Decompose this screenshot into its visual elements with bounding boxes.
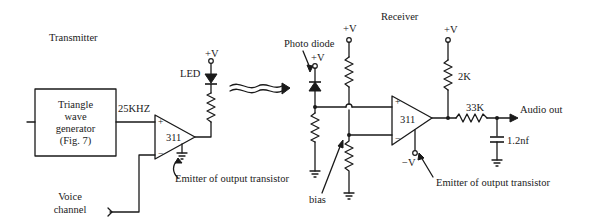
resistor-icon [311, 113, 319, 142]
resistor-icon [207, 93, 215, 122]
audio-out-label: Audio out [520, 104, 562, 115]
pullup-supply-label: +V [444, 24, 458, 35]
resistor-icon [444, 60, 452, 90]
receiver-section: Photo diode +V +V [284, 23, 562, 205]
bias-pointer [322, 144, 341, 193]
tx-supply-label: +V [205, 48, 219, 59]
generator-text-4: (Fig. 7) [60, 135, 92, 147]
ground-icon [310, 171, 320, 177]
resistor-icon [456, 114, 487, 122]
tx-plus-sign: + [158, 117, 163, 127]
voice-label-2: channel [54, 204, 87, 215]
receiver-title: Receiver [381, 11, 419, 22]
rx-plus-sign: + [395, 97, 400, 107]
divider-supply-label: +V [343, 23, 357, 34]
capacitor-icon [490, 137, 504, 142]
neg-supply-label: −V [402, 157, 416, 168]
frequency-label: 25KHZ [118, 103, 150, 114]
tx-comparator-label: 311 [166, 132, 181, 143]
transmitter-section: Triangle wave generator (Fig. 7) 25KHZ +… [27, 48, 290, 216]
photodiode-pointer-arrowhead-icon [307, 65, 313, 72]
transmitter-title: Transmitter [49, 32, 98, 43]
audio-out-arrow-icon [510, 114, 518, 122]
circuit-diagram: Transmitter Receiver Triangle wave gener… [0, 0, 591, 223]
ground-icon [344, 193, 354, 199]
resistor-icon [345, 57, 353, 87]
tx-supply-terminal [209, 59, 214, 64]
ground-icon [492, 160, 502, 166]
tx-minus-sign: − [158, 149, 163, 159]
photodiode-label: Photo diode [284, 38, 335, 49]
generator-text-1: Triangle [58, 99, 94, 110]
rx-emitter-note: Emitter of output transistor [436, 177, 551, 188]
series-resistor-label: 33K [466, 102, 485, 113]
bias-pointer-arrowhead-icon [338, 140, 343, 148]
tx-emitter-note: Emitter of output transistor [175, 173, 290, 184]
light-transmission-icon [230, 83, 290, 94]
voice-label-1: Voice [58, 191, 82, 202]
tx-output-wire [195, 122, 211, 137]
generator-text-2: wave [64, 111, 86, 122]
rx-minus-sign: − [395, 134, 400, 144]
rx-emitter-pointer [421, 157, 433, 177]
capacitor-label: 1.2nf [507, 135, 529, 146]
led-diode-icon [205, 74, 217, 84]
voice-channel-wire [110, 155, 155, 212]
photodiode-icon [309, 82, 321, 91]
resistor-icon [345, 135, 353, 193]
pullup-resistor-label: 2K [458, 71, 471, 82]
pd-supply-label: +V [311, 52, 325, 63]
neg-supply-terminal [413, 151, 418, 156]
led-label: LED [180, 68, 201, 79]
rx-comparator-label: 311 [400, 114, 415, 125]
bias-label: bias [309, 194, 326, 205]
generator-text-3: generator [56, 123, 96, 134]
rx-emitter-arrowhead-icon [418, 153, 424, 160]
